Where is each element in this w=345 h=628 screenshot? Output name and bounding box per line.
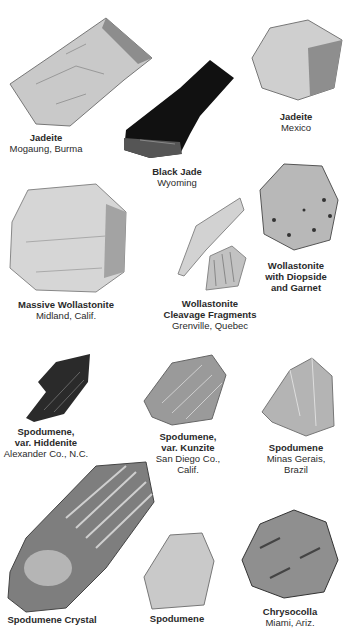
specimen-location: Wyoming — [152, 177, 202, 188]
specimen-location: Mexico — [280, 122, 313, 133]
caption: Spodumene — [150, 613, 204, 624]
specimen-name: Black Jade — [152, 166, 202, 177]
specimen-location: Midland, Calif. — [18, 310, 114, 321]
hiddenite-illustration — [24, 352, 94, 424]
caption: Spodumene Crystal — [7, 614, 96, 625]
specimen-location: Minas Gerais, — [267, 453, 326, 464]
specimen-name-line2: var. Hiddenite — [4, 437, 88, 448]
specimen-location: Miami, Ariz. — [263, 617, 317, 628]
specimen-name: Spodumene Crystal — [7, 614, 96, 625]
caption: Jadeite Mogaung, Burma — [10, 132, 83, 154]
spodumene-crystal-illustration — [6, 458, 156, 616]
wollastonite-garnet-illustration — [254, 160, 340, 252]
spodumene-illustration — [142, 531, 216, 611]
specimen-name: Spodumene — [267, 442, 326, 453]
caption: Spodumene, var. Kunzite San Diego Co., C… — [156, 431, 220, 475]
specimen-location: San Diego Co., — [156, 453, 220, 464]
black-jade-illustration — [120, 58, 235, 160]
wollastonite-cleavage-illustration — [176, 196, 248, 292]
specimen-location-line2: Calif. — [156, 464, 220, 475]
specimen-name: Massive Wollastonite — [18, 299, 114, 310]
specimen-name: Spodumene, — [4, 426, 88, 437]
specimen-name: Spodumene — [150, 613, 204, 624]
specimen-name-line2: var. Kunzite — [156, 442, 220, 453]
caption: Wollastonite with Diopside and Garnet — [265, 260, 327, 293]
caption: Spodumene, var. Hiddenite Alexander Co.,… — [4, 426, 88, 459]
specimen-name: Wollastonite — [164, 298, 257, 309]
specimen-name-line2: Cleavage Fragments — [164, 309, 257, 320]
specimen-name: Jadeite — [280, 111, 313, 122]
caption: Massive Wollastonite Midland, Calif. — [18, 299, 114, 321]
specimen-location: Grenville, Quebec — [164, 320, 257, 331]
massive-wollastonite-illustration — [6, 182, 130, 294]
specimen-name: Wollastonite — [265, 260, 327, 271]
specimen-location-line2: Brazil — [267, 464, 326, 475]
specimen-name-line2: with Diopside — [265, 271, 327, 282]
chrysocolla-illustration — [240, 508, 340, 600]
caption: Jadeite Mexico — [280, 111, 313, 133]
specimen-location: Mogaung, Burma — [10, 143, 83, 154]
caption: Wollastonite Cleavage Fragments Grenvill… — [164, 298, 257, 331]
caption: Spodumene Minas Gerais, Brazil — [267, 442, 326, 475]
jadeite-mexico-illustration — [248, 18, 344, 103]
specimen-name-line3: and Garnet — [265, 282, 327, 293]
caption: Chrysocolla Miami, Ariz. — [263, 606, 317, 628]
kunzite-illustration — [142, 353, 228, 429]
spodumene-brazil-illustration — [260, 356, 336, 438]
specimen-name: Jadeite — [10, 132, 83, 143]
specimen-name: Chrysocolla — [263, 606, 317, 617]
caption: Black Jade Wyoming — [152, 166, 202, 188]
specimen-name: Spodumene, — [156, 431, 220, 442]
